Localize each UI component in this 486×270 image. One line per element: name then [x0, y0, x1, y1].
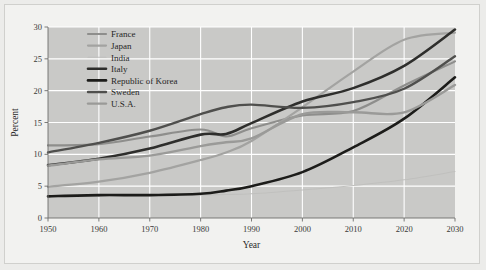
x-tick-label: 1950 [40, 224, 57, 234]
x-tick-label: 2020 [396, 224, 413, 234]
y-tick-label: 0 [38, 213, 42, 223]
line-chart: 0510152025301950196019701980199020002010… [0, 0, 486, 270]
x-tick-label: 1980 [192, 224, 209, 234]
legend-label-sweden: Sweden [111, 87, 140, 97]
y-tick-label: 20 [34, 86, 43, 96]
x-tick-label: 2030 [447, 224, 464, 234]
legend-label-india: India [111, 53, 130, 63]
x-tick-label: 2010 [345, 224, 362, 234]
y-tick-label: 5 [38, 181, 42, 191]
legend-label-italy: Italy [111, 64, 128, 74]
x-tick-label: 1960 [90, 224, 107, 234]
x-tick-label: 2000 [294, 224, 311, 234]
y-axis-title: Percent [10, 108, 20, 137]
y-tick-label: 10 [34, 149, 43, 159]
legend-label-republic-of-korea: Republic of Korea [111, 76, 177, 86]
y-tick-label: 15 [34, 118, 43, 128]
legend-label-france: France [111, 29, 136, 39]
y-tick-label: 25 [34, 54, 43, 64]
y-tick-label: 30 [34, 22, 43, 32]
legend-label-japan: Japan [111, 41, 132, 51]
legend-label-u-s-a: U.S.A. [111, 99, 136, 109]
x-tick-label: 1990 [243, 224, 260, 234]
x-tick-label: 1970 [141, 224, 158, 234]
x-axis-title: Year [243, 240, 261, 250]
